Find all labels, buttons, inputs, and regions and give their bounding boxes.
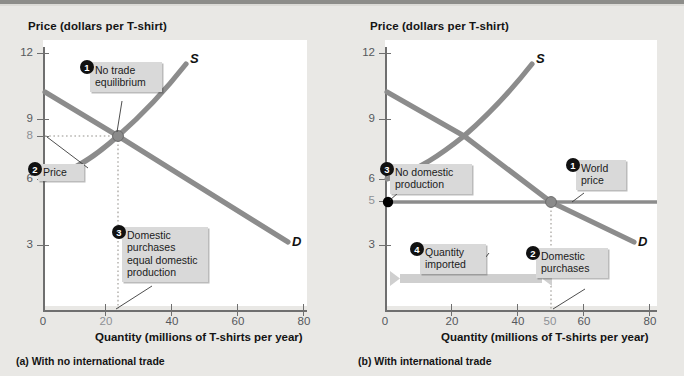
panel-b-callout-no-domestic-production: No domestic production xyxy=(390,164,472,194)
panel-b-with-trade: Price (dollars per T-shirt) 12 9 6 5 3 0… xyxy=(342,6,684,376)
panel-a-leader-1 xyxy=(117,101,122,132)
panel-a-supply-label: S xyxy=(190,51,199,66)
panel-b-callout-quantity-imported: Quantity imported xyxy=(420,244,486,274)
economics-figure: Price (dollars per T-shirt) 12 9 8 6 3 0… xyxy=(0,0,684,376)
panel-a-callout-domestic-purchases: Domestic purchases equal domestic produc… xyxy=(122,227,208,282)
panel-a-demand-label: D xyxy=(292,234,301,249)
panel-a-callout-price: Price xyxy=(38,164,84,181)
panel-b-supply-curve xyxy=(387,64,532,179)
panel-b-leader-2 xyxy=(553,289,585,309)
panel-b-domestic-purchases-dot xyxy=(546,197,557,208)
panel-b-badge-1: 1 xyxy=(566,158,580,172)
panel-b-badge-4: 4 xyxy=(410,242,424,256)
panel-a-no-trade: Price (dollars per T-shirt) 12 9 8 6 3 0… xyxy=(0,6,342,376)
top-divider-rule xyxy=(0,0,684,4)
panel-b-badge-3: 3 xyxy=(380,162,394,176)
panel-b-supply-label: S xyxy=(536,51,545,66)
panel-a-equilibrium-dot xyxy=(113,131,124,142)
panel-a-callout-no-trade-equilibrium: No trade equilibrium xyxy=(90,62,162,92)
panel-a-curves xyxy=(0,6,342,376)
panel-b-demand-label: D xyxy=(638,234,647,249)
panel-a-badge-1: 1 xyxy=(80,60,94,74)
panel-b-callout-world-price: World price xyxy=(576,160,626,190)
panel-b-badge-2: 2 xyxy=(526,246,540,260)
panel-b-callout-domestic-purchases: Domestic purchases xyxy=(536,248,608,278)
panel-a-badge-3: 3 xyxy=(112,225,126,239)
panel-a-badge-2: 2 xyxy=(28,162,42,176)
panel-a-leader-3 xyxy=(116,286,152,309)
